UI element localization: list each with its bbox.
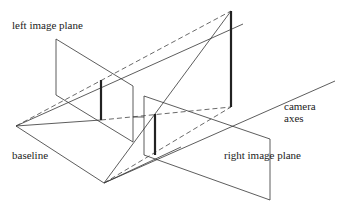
left-ray-bottom-dashed xyxy=(101,107,231,120)
left-ray-bottom xyxy=(16,120,101,126)
right-ray-top xyxy=(104,11,231,183)
camera-axes-label-line2: axes xyxy=(284,112,304,124)
right-camera-axis xyxy=(104,81,335,183)
camera-axes-label-line1: camera xyxy=(284,100,316,112)
left-image-plane-label: left image plane xyxy=(12,19,83,31)
right-ray-top-dashed xyxy=(104,107,231,183)
left-camera-axis xyxy=(16,24,243,126)
stereo-diagram: left image plane baseline camera axes ri… xyxy=(0,0,343,210)
left-plane-bottom-edge xyxy=(56,95,133,142)
right-ray-low xyxy=(104,147,181,183)
right-image-plane-label: right image plane xyxy=(224,149,301,161)
right-plane-bottom-edge xyxy=(144,155,270,200)
baseline-label: baseline xyxy=(12,149,48,161)
